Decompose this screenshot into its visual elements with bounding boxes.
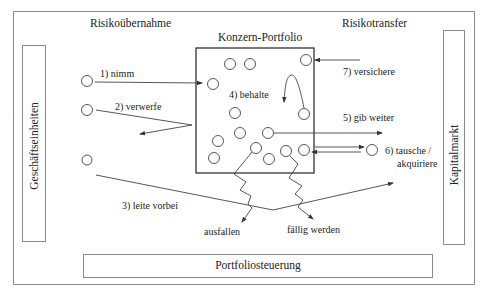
risk-circle [82,105,93,116]
diagram-graphics [0,0,488,297]
risk-circle [82,76,93,87]
risk-circle [82,155,92,165]
